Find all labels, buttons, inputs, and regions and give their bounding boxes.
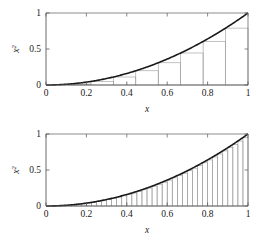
riemann-bar (226, 28, 248, 85)
riemann-bar (243, 138, 248, 206)
y-ticks-bottom: 00.51 (29, 129, 248, 211)
y-axis-title-base: x2 (10, 166, 21, 175)
riemann-bar (181, 53, 203, 85)
riemann-bar (208, 160, 213, 206)
riemann-bar (162, 182, 167, 206)
x-tick-label: 0.8 (202, 88, 214, 98)
riemann-bar (122, 196, 127, 206)
riemann-bar (228, 148, 233, 206)
x-tick-label: 0.8 (202, 209, 214, 219)
riemann-bar (113, 77, 135, 85)
y-axis-title-exponent: 2 (10, 166, 17, 170)
riemann-bar (142, 190, 147, 206)
riemann-bar (192, 168, 197, 206)
y-tick-label: 0 (36, 201, 41, 211)
riemann-rectangles-bottom (51, 138, 248, 206)
x-tick-label: 0 (44, 209, 49, 219)
riemann-sum-figure: 00.20.40.60.8100.51xx2 00.20.40.60.8100.… (0, 0, 262, 242)
riemann-bar (136, 71, 158, 85)
riemann-rectangles-top (68, 28, 248, 85)
x-axis-title: x (144, 225, 150, 235)
x-tick-label: 0.4 (121, 209, 133, 219)
y-tick-label: 0.5 (29, 44, 41, 54)
riemann-bar (182, 173, 187, 206)
riemann-bar (203, 163, 208, 206)
chart-svg-bottom: 00.20.40.60.8100.51xx2 (0, 121, 262, 242)
riemann-bar (107, 200, 112, 206)
riemann-bar (167, 180, 172, 206)
riemann-bar (112, 198, 117, 206)
x-tick-label: 0.6 (161, 88, 173, 98)
riemann-bar (177, 176, 182, 206)
y-tick-label: 0.5 (29, 165, 41, 175)
riemann-bar (233, 144, 238, 206)
riemann-bar (102, 201, 107, 206)
riemann-bar (137, 191, 142, 206)
x-tick-label: 0 (44, 88, 49, 98)
riemann-bar (158, 63, 180, 85)
riemann-bar (203, 41, 225, 85)
riemann-bar (157, 184, 162, 206)
y-axis-title: x2 (10, 45, 21, 54)
y-axis-title-base: x2 (10, 45, 21, 54)
riemann-bar (117, 197, 122, 206)
riemann-bar (238, 141, 243, 206)
chart-panel-top: 00.20.40.60.8100.51xx2 (0, 0, 262, 121)
chart-panel-bottom: 00.20.40.60.8100.51xx2 (0, 121, 262, 242)
y-tick-label: 0 (36, 80, 41, 90)
riemann-bar (187, 171, 192, 206)
y-ticks-top: 00.51 (29, 8, 248, 90)
function-curve-top (46, 13, 248, 85)
x-tick-label: 1 (246, 209, 251, 219)
x-axis-title: x (144, 104, 150, 114)
y-tick-label: 1 (36, 129, 41, 139)
x-tick-label: 0.2 (80, 209, 92, 219)
x-tick-label: 1 (246, 88, 251, 98)
riemann-bar (213, 157, 218, 206)
riemann-bar (91, 81, 113, 85)
x-tick-label: 0.6 (161, 209, 173, 219)
riemann-bar (198, 166, 203, 207)
riemann-bar (127, 194, 132, 206)
riemann-bar (223, 151, 228, 206)
riemann-bar (172, 178, 177, 206)
riemann-bar (147, 188, 152, 206)
x-tick-label: 0.2 (80, 88, 92, 98)
riemann-bar (132, 193, 137, 206)
riemann-bar (152, 186, 157, 206)
y-axis-title: x2 (10, 166, 21, 175)
axes-top (46, 13, 248, 85)
chart-svg-top: 00.20.40.60.8100.51xx2 (0, 0, 262, 121)
y-tick-label: 1 (36, 8, 41, 18)
y-axis-title-exponent: 2 (10, 45, 17, 49)
x-tick-label: 0.4 (121, 88, 133, 98)
riemann-bar (218, 154, 223, 206)
